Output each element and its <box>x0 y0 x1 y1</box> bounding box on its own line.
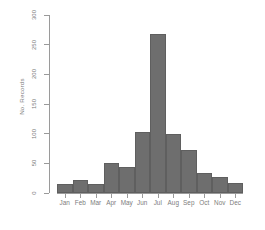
x-axis-tick <box>220 194 221 198</box>
bar-chart: No. Records 050100150200250300 JanFebMar… <box>0 0 265 230</box>
bar <box>197 173 213 193</box>
bar <box>135 132 151 193</box>
x-axis-tick-label: Dec <box>224 199 246 206</box>
x-axis-tick <box>111 194 112 198</box>
x-axis-tick <box>235 194 236 198</box>
x-axis-tick <box>80 194 81 198</box>
bar <box>57 184 73 193</box>
x-axis-tick <box>65 194 66 198</box>
x-axis-tick <box>173 194 174 198</box>
x-axis-line <box>57 193 243 194</box>
bar <box>104 163 120 193</box>
bar <box>166 134 182 193</box>
bars-layer <box>0 0 265 230</box>
bar <box>119 167 135 193</box>
bar <box>150 34 166 193</box>
x-axis-tick <box>96 194 97 198</box>
bar <box>88 184 104 193</box>
x-axis-tick <box>189 194 190 198</box>
bar <box>228 183 244 193</box>
bar <box>181 150 197 193</box>
x-axis-tick <box>127 194 128 198</box>
bar <box>212 177 228 193</box>
x-axis-tick <box>158 194 159 198</box>
x-axis-tick <box>204 194 205 198</box>
bar <box>73 180 89 193</box>
x-axis-tick <box>142 194 143 198</box>
